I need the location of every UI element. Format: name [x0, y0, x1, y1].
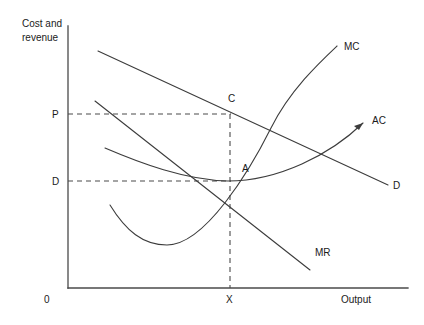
marginal-revenue-curve: [95, 101, 310, 270]
point-a-label: A: [242, 163, 249, 174]
mr-label: MR: [315, 247, 331, 258]
average-cost-curve: [105, 123, 363, 181]
origin-label: 0: [44, 294, 50, 305]
average-cost-arrow-icon: [354, 123, 363, 130]
x-tick-output-label: X: [226, 294, 233, 305]
demand-label: D: [393, 180, 400, 191]
ac-label: AC: [372, 115, 386, 126]
x-axis-title: Output: [341, 294, 371, 305]
economics-diagram: MC AC D MR C A P D X 0 Cost and revenue …: [0, 0, 424, 325]
mc-label: MC: [344, 41, 360, 52]
y-tick-price-label: P: [52, 109, 59, 120]
y-axis-title-line2: revenue: [22, 32, 59, 43]
y-tick-cost-label: D: [52, 176, 59, 187]
point-c-label: C: [228, 93, 235, 104]
y-axis-title-line1: Cost and: [22, 18, 62, 29]
